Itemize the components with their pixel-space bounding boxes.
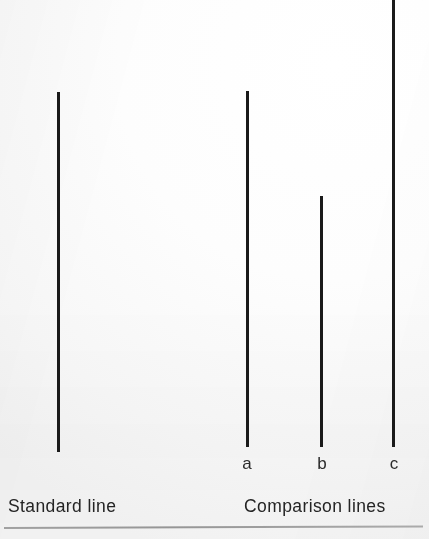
- line-label-a: a: [232, 455, 262, 472]
- comparison-line-a: [246, 91, 249, 447]
- standard-line-caption: Standard line: [8, 498, 116, 516]
- comparison-line-b: [320, 196, 323, 447]
- comparison-lines-caption: Comparison lines: [244, 498, 386, 516]
- bottom-divider-rule: [4, 525, 423, 529]
- line-label-b: b: [307, 455, 337, 472]
- standard-line: [57, 92, 60, 452]
- paper-texture: [0, 0, 429, 539]
- stimulus-figure: a b c Standard line Comparison lines: [0, 0, 429, 539]
- line-label-c: c: [379, 455, 409, 472]
- comparison-line-c: [392, 0, 395, 447]
